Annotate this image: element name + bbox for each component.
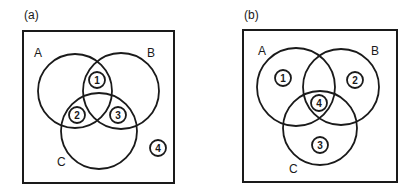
- set-b-label: B: [147, 46, 155, 60]
- set-c-label: C: [57, 155, 66, 169]
- panel-b-label: (b): [244, 8, 259, 22]
- region-marker-2: 2: [69, 107, 85, 123]
- region-label: 2: [352, 75, 358, 86]
- region-label: 3: [115, 110, 121, 121]
- set-b-label: B: [371, 44, 379, 58]
- set-c-circle: [61, 93, 137, 169]
- set-b-circle: [83, 53, 159, 129]
- region-marker-3: 3: [110, 107, 126, 123]
- region-marker-4: 4: [311, 95, 327, 111]
- region-label: 1: [280, 73, 286, 84]
- region-marker-2: 2: [347, 72, 363, 88]
- set-b-circle: [303, 49, 379, 125]
- region-marker-1: 1: [275, 70, 291, 86]
- region-marker-4: 4: [150, 140, 166, 156]
- panel-b: (b) A B C 1 2 3 4: [243, 8, 397, 182]
- region-marker-1: 1: [89, 72, 105, 88]
- region-label: 4: [316, 98, 322, 109]
- region-label: 4: [155, 143, 161, 154]
- region-marker-3: 3: [312, 137, 328, 153]
- region-label: 2: [74, 110, 80, 121]
- region-label: 3: [317, 140, 323, 151]
- set-a-label: A: [258, 44, 266, 58]
- panel-a: (a) A B C 1 2 3 4: [23, 8, 174, 183]
- set-c-label: C: [289, 162, 298, 176]
- region-label: 1: [94, 75, 100, 86]
- venn-diagrams: (a) A B C 1 2 3 4 (b) A B C: [0, 0, 417, 194]
- set-a-circle: [257, 48, 335, 126]
- set-a-label: A: [34, 46, 42, 60]
- panel-a-label: (a): [24, 8, 39, 22]
